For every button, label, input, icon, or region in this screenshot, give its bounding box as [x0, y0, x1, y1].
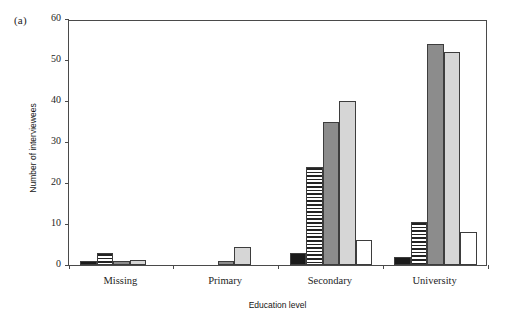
panel-label: (a)	[14, 14, 27, 26]
y-tick-mark	[65, 224, 69, 225]
bar	[80, 261, 97, 265]
bar	[427, 44, 444, 265]
x-tick-mark	[69, 265, 70, 269]
y-tick-mark	[65, 60, 69, 61]
y-tick-label: 30	[35, 135, 61, 146]
x-tick-mark	[488, 265, 489, 269]
y-tick-label: 0	[35, 258, 61, 269]
y-tick-label: 60	[35, 12, 61, 23]
y-tick-label: 40	[35, 94, 61, 105]
x-category-label-primary: Primary	[170, 275, 280, 286]
bar	[339, 101, 356, 265]
bar	[130, 260, 147, 265]
x-axis-title: Education level	[68, 300, 487, 310]
x-category-label-secondary: Secondary	[275, 275, 385, 286]
bar	[306, 167, 323, 265]
y-tick-mark	[65, 142, 69, 143]
plot-area: 0102030405060	[68, 20, 487, 266]
bar	[394, 257, 411, 265]
bar	[356, 240, 373, 265]
y-tick-label: 10	[35, 217, 61, 228]
x-category-label-missing: Missing	[65, 275, 175, 286]
x-tick-mark	[278, 265, 279, 269]
bar	[460, 232, 477, 265]
y-tick-mark	[65, 183, 69, 184]
bar	[113, 261, 130, 265]
bar	[97, 253, 114, 265]
x-tick-mark	[173, 265, 174, 269]
y-tick-mark	[65, 101, 69, 102]
x-tick-mark	[383, 265, 384, 269]
y-tick-mark	[65, 19, 69, 20]
bar	[290, 253, 307, 265]
y-tick-label: 50	[35, 53, 61, 64]
bar	[411, 222, 428, 265]
bar	[323, 122, 340, 266]
figure-panel-a: (a) Number of interviewees 0102030405060…	[0, 0, 510, 331]
bar	[234, 247, 251, 265]
x-category-label-university: University	[380, 275, 490, 286]
y-axis-title: Number of interviewees	[28, 53, 38, 243]
y-tick-label: 20	[35, 176, 61, 187]
bar	[218, 261, 235, 265]
bar	[444, 52, 461, 265]
